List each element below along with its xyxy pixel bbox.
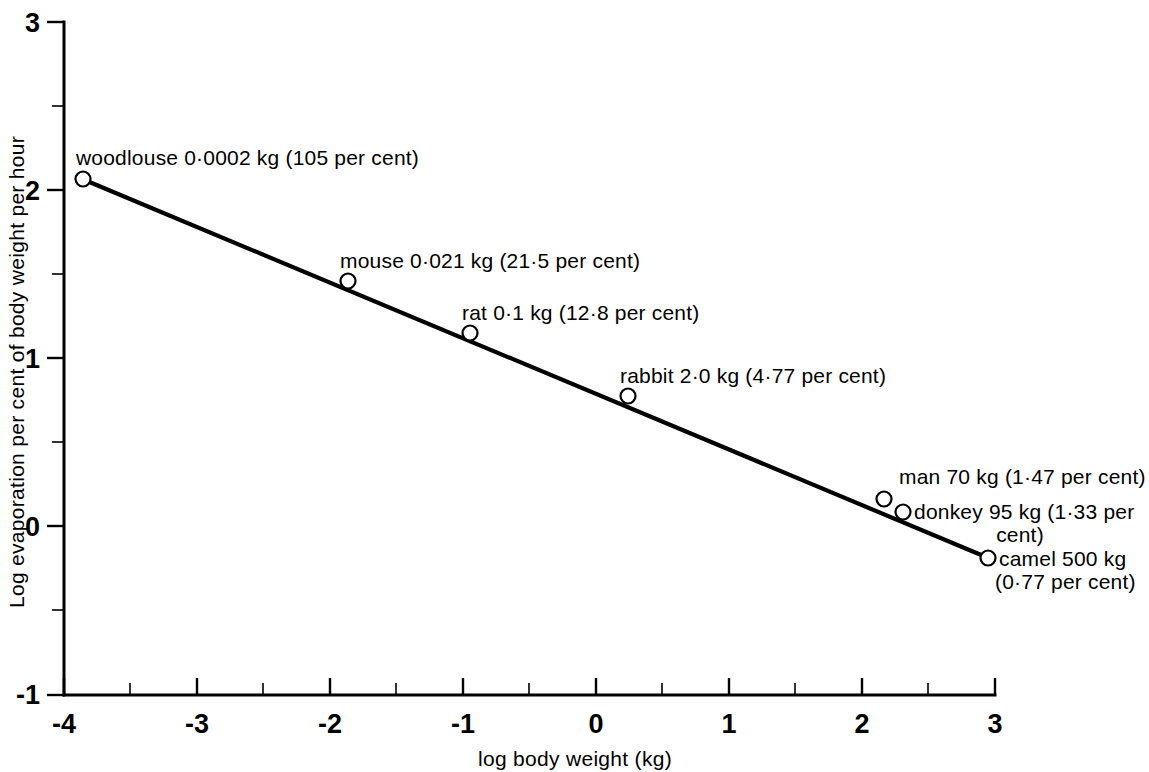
- x-tick-label-neg1: -1: [451, 709, 475, 739]
- point-label-donkey: donkey 95 kg (1·33 per: [914, 499, 1134, 524]
- point-label-woodlouse: woodlouse 0·0002 kg (105 per cent): [76, 145, 419, 170]
- y-tick-label-3: 3: [25, 8, 40, 38]
- data-point-mouse[interactable]: [341, 274, 356, 289]
- point-label-rat: rat 0·1 kg (12·8 per cent): [462, 300, 699, 325]
- x-tick-label-3: 3: [987, 709, 1002, 739]
- x-axis-title: log body weight (kg): [478, 747, 672, 770]
- point-label-man: man 70 kg (1·47 per cent): [899, 464, 1146, 489]
- point-label-mouse: mouse 0·021 kg (21·5 per cent): [340, 248, 640, 273]
- y-tick-label-neg1: -1: [16, 680, 40, 710]
- data-point-donkey[interactable]: [896, 505, 911, 520]
- point-label-rabbit: rabbit 2·0 kg (4·77 per cent): [620, 363, 886, 388]
- scatter-plot: 3 2 1 0 -1 -4 -3 -2 -1 0 1 2 3 log body …: [0, 0, 1149, 772]
- data-point-man[interactable]: [877, 492, 892, 507]
- data-point-rabbit[interactable]: [621, 389, 636, 404]
- x-tick-label-neg4: -4: [52, 709, 76, 739]
- chart-page: 3 2 1 0 -1 -4 -3 -2 -1 0 1 2 3 log body …: [0, 0, 1149, 772]
- point-label-donkey-cont: cent): [914, 522, 1126, 547]
- point-label-camel-cont: (0·77 per cent): [995, 569, 1136, 594]
- y-axis-title: Log evaporation per cent of body weight …: [5, 136, 28, 608]
- data-point-rat[interactable]: [463, 326, 478, 341]
- x-tick-label-neg2: -2: [318, 709, 342, 739]
- data-point-woodlouse[interactable]: [76, 172, 91, 187]
- x-tick-label-2: 2: [854, 709, 869, 739]
- point-label-camel: camel 500 kg: [999, 546, 1126, 571]
- x-tick-label-1: 1: [721, 709, 736, 739]
- x-tick-label-0: 0: [588, 709, 603, 739]
- x-tick-label-neg3: -3: [185, 709, 209, 739]
- data-point-camel[interactable]: [981, 551, 996, 566]
